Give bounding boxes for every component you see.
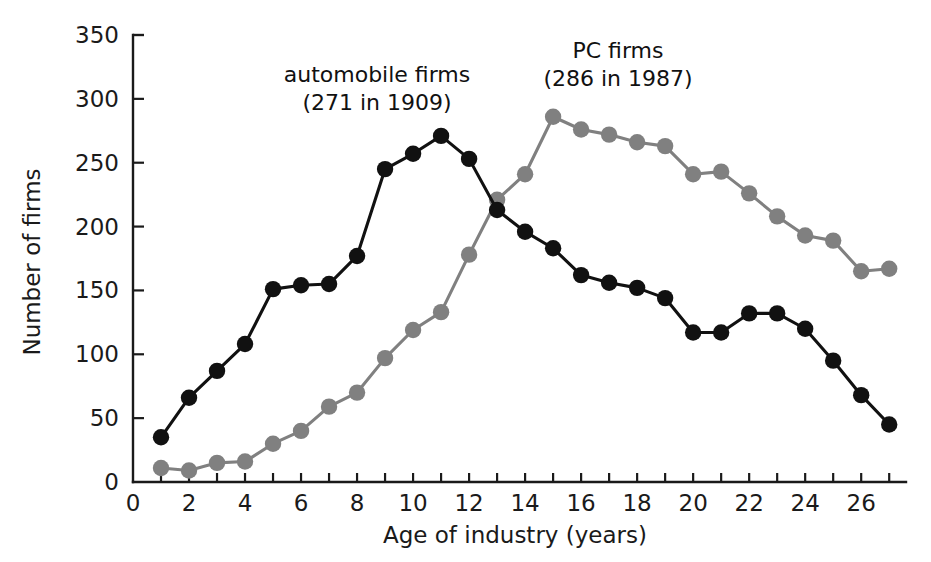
x-axis: 02468101214161820222426 xyxy=(126,473,906,516)
data-point xyxy=(433,128,449,144)
data-point xyxy=(741,185,757,201)
data-point xyxy=(573,267,589,283)
data-point xyxy=(209,455,225,471)
x-axis-tick-label: 20 xyxy=(679,490,708,516)
y-axis-tick-label: 50 xyxy=(90,405,119,431)
y-axis-title: Number of firms xyxy=(19,168,45,355)
data-point xyxy=(657,290,673,306)
y-axis-tick-label: 0 xyxy=(104,469,119,495)
data-point xyxy=(265,435,281,451)
data-point xyxy=(601,275,617,291)
y-axis-tick-label: 150 xyxy=(75,277,119,303)
x-axis-tick-label: 12 xyxy=(454,490,483,516)
data-point xyxy=(321,398,337,414)
data-point xyxy=(545,109,561,125)
data-point xyxy=(377,350,393,366)
data-point xyxy=(881,261,897,277)
data-point xyxy=(741,305,757,321)
data-point xyxy=(405,146,421,162)
data-point xyxy=(713,324,729,340)
data-point xyxy=(629,134,645,150)
data-point xyxy=(517,166,533,182)
x-axis-tick-label: 26 xyxy=(847,490,876,516)
automobile-firms-label-line-1: automobile firms xyxy=(284,62,471,87)
chart-annotations: automobile firms(271 in 1909)PC firms(28… xyxy=(284,38,693,115)
data-point xyxy=(181,462,197,478)
y-axis-tick-label: 350 xyxy=(75,22,119,48)
data-point xyxy=(881,416,897,432)
data-point xyxy=(629,280,645,296)
data-point xyxy=(377,161,393,177)
automobile-firms-label: automobile firms(271 in 1909) xyxy=(284,62,471,115)
data-point xyxy=(853,263,869,279)
data-point xyxy=(237,336,253,352)
data-point xyxy=(545,240,561,256)
data-point xyxy=(825,352,841,368)
data-series-group xyxy=(153,109,898,479)
data-point xyxy=(349,248,365,264)
data-point xyxy=(825,232,841,248)
data-point xyxy=(153,460,169,476)
x-axis-tick-label: 2 xyxy=(182,490,197,516)
data-point xyxy=(685,324,701,340)
y-axis-tick-label: 100 xyxy=(75,341,119,367)
series-pc-firms xyxy=(153,109,898,479)
data-point xyxy=(489,202,505,218)
data-point xyxy=(181,390,197,406)
y-axis-tick-label: 200 xyxy=(75,214,119,240)
data-point xyxy=(321,276,337,292)
y-axis-tick-label: 300 xyxy=(75,86,119,112)
x-axis-title: Age of industry (years) xyxy=(383,522,647,548)
x-axis-tick-label: 18 xyxy=(622,490,651,516)
pc-firms-label: PC firms(286 in 1987) xyxy=(543,38,692,91)
x-axis-tick-label: 4 xyxy=(238,490,253,516)
data-point xyxy=(517,223,533,239)
x-axis-tick-label: 22 xyxy=(735,490,764,516)
data-point xyxy=(713,163,729,179)
data-point xyxy=(685,166,701,182)
data-point xyxy=(209,363,225,379)
data-point xyxy=(153,429,169,445)
data-point xyxy=(265,281,281,297)
data-point xyxy=(601,126,617,142)
x-axis-tick-label: 8 xyxy=(350,490,365,516)
x-axis-tick-label: 16 xyxy=(566,490,595,516)
data-point xyxy=(293,277,309,293)
x-axis-tick-label: 6 xyxy=(294,490,309,516)
pc-firms-label-line-2: (286 in 1987) xyxy=(543,66,692,91)
data-point xyxy=(797,321,813,337)
data-point xyxy=(433,304,449,320)
pc-firms-label-line-1: PC firms xyxy=(572,38,663,63)
y-axis: 050100150200250300350 xyxy=(75,22,144,495)
y-axis-tick-label: 250 xyxy=(75,150,119,176)
x-axis-tick-label: 14 xyxy=(510,490,539,516)
x-axis-tick-label: 24 xyxy=(791,490,820,516)
data-point xyxy=(573,121,589,137)
line-chart-canvas: 050100150200250300350 024681012141618202… xyxy=(0,0,931,562)
data-point xyxy=(405,322,421,338)
x-axis-tick-label: 10 xyxy=(398,490,427,516)
data-point xyxy=(853,387,869,403)
data-point xyxy=(797,227,813,243)
data-point xyxy=(769,305,785,321)
data-point xyxy=(237,453,253,469)
data-point xyxy=(349,384,365,400)
automobile-firms-label-line-2: (271 in 1909) xyxy=(302,90,451,115)
chart-figure: 050100150200250300350 024681012141618202… xyxy=(0,0,931,562)
data-point xyxy=(461,246,477,262)
data-point xyxy=(769,208,785,224)
x-axis-tick-label: 0 xyxy=(126,490,141,516)
data-point xyxy=(461,151,477,167)
data-point xyxy=(657,138,673,154)
data-point xyxy=(293,423,309,439)
